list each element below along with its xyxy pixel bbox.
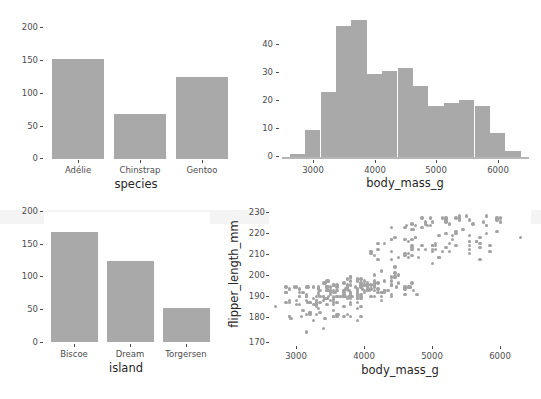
- scatter-point: [373, 279, 376, 282]
- histogram-bin[interactable]: [444, 103, 459, 157]
- histogram-ytick-label: 0: [245, 152, 273, 161]
- scatter-point: [369, 295, 372, 298]
- scatter-point: [359, 281, 362, 284]
- scatter-point: [359, 277, 362, 280]
- scatter-point: [458, 214, 461, 217]
- scatter-point: [359, 305, 362, 308]
- scatter-point: [298, 287, 301, 290]
- scatter-point: [448, 250, 451, 253]
- scatter-point: [373, 285, 376, 288]
- histogram-bin[interactable]: [475, 106, 490, 157]
- scatter-point: [390, 258, 393, 261]
- bar-biscoe[interactable]: [51, 232, 98, 342]
- scatter-point: [369, 283, 372, 286]
- scatter-xtick-mark: [500, 346, 501, 349]
- scatter-point: [468, 218, 471, 221]
- scatter-point: [410, 254, 413, 257]
- bar-adelie[interactable]: [52, 59, 104, 159]
- island-xtick-label: Torgersen: [156, 350, 216, 359]
- scatter-point: [488, 250, 491, 253]
- bar-dream[interactable]: [107, 261, 154, 342]
- scatter-point: [346, 277, 349, 280]
- histogram-bin[interactable]: [382, 71, 397, 157]
- histogram-bin[interactable]: [305, 130, 320, 157]
- species-ytick-label: 100: [4, 89, 38, 98]
- scatter-point: [444, 218, 447, 221]
- scatter-point: [414, 224, 417, 227]
- histogram-bin[interactable]: [413, 86, 428, 157]
- histogram-bin[interactable]: [336, 26, 351, 157]
- scatter-xtick-mark: [364, 346, 365, 349]
- histogram-bin[interactable]: [367, 74, 382, 157]
- histogram-ytick-mark: [276, 44, 279, 45]
- bar-torgersen[interactable]: [163, 308, 210, 342]
- island-ytick-label: 100: [4, 272, 38, 281]
- bar-chinstrap[interactable]: [114, 114, 166, 159]
- island-ytick-mark: [40, 276, 43, 277]
- scatter-point: [397, 281, 400, 284]
- island-ytick-mark: [40, 211, 43, 212]
- scatter-point: [499, 220, 502, 223]
- histogram-bin[interactable]: [459, 100, 474, 157]
- scatter-point: [410, 222, 413, 225]
- scatter-point: [305, 285, 308, 288]
- scatter-point: [318, 311, 321, 314]
- scatter-point: [376, 258, 379, 261]
- scatter-point: [441, 250, 444, 253]
- scatter-point: [300, 315, 303, 318]
- species-ytick-mark: [40, 126, 43, 127]
- species-ytick-mark: [40, 158, 43, 159]
- scatter-point: [342, 305, 345, 308]
- island-ytick-label: 150: [4, 240, 38, 249]
- island-xtick-mark: [74, 344, 75, 347]
- island-ytick-label: 50: [4, 305, 38, 314]
- scatter-point: [397, 256, 400, 259]
- island-xtick-label: Biscoe: [44, 350, 104, 359]
- scatter-point: [424, 220, 427, 223]
- panel-body-mass-histogram: 40 30 20 10 0 3000 4000 5000 6000 body_m…: [245, 0, 541, 199]
- bar-gentoo[interactable]: [176, 77, 228, 159]
- scatter-point: [342, 315, 345, 318]
- island-ytick-mark: [40, 342, 43, 343]
- island-ytick-mark: [40, 309, 43, 310]
- histogram-baseline: [282, 157, 529, 159]
- scatter-xtick-label: 6000: [475, 352, 525, 361]
- scatter-point: [468, 234, 471, 237]
- scatter-point: [478, 236, 481, 239]
- scatter-point: [468, 240, 471, 243]
- histogram-bin[interactable]: [398, 68, 413, 157]
- scatter-point: [373, 295, 376, 298]
- histogram-bin[interactable]: [428, 106, 443, 157]
- island-ytick-label: 200: [4, 207, 38, 216]
- species-ytick-label: 50: [4, 122, 38, 131]
- scatter-point: [485, 224, 488, 227]
- scatter-point: [349, 283, 352, 286]
- island-xtick-label: Dream: [100, 350, 160, 359]
- histogram-bin[interactable]: [490, 133, 505, 157]
- scatter-xtick-label: 3000: [271, 352, 321, 361]
- histogram-bin[interactable]: [321, 92, 336, 158]
- histogram-xtick-label: 6000: [473, 166, 523, 175]
- island-xtick-mark: [130, 344, 131, 347]
- panel-mass-vs-flipper-scatter: flipper_length_mm 230 220 210 200 190 18…: [215, 200, 541, 399]
- island-xaxis-title: island: [40, 363, 212, 375]
- island-ytick-mark: [40, 244, 43, 245]
- scatter-xtick-label: 4000: [339, 352, 389, 361]
- scatter-point: [393, 236, 396, 239]
- scatter-point: [448, 242, 451, 245]
- species-xtick-mark: [140, 160, 141, 163]
- scatter-xaxis-title: body_mass_g: [325, 365, 475, 377]
- scatter-point: [386, 289, 389, 292]
- histogram-bin[interactable]: [351, 20, 366, 157]
- scatter-point: [495, 216, 498, 219]
- scatter-point: [323, 317, 326, 320]
- scatter-point: [335, 313, 338, 316]
- scatter-point: [325, 297, 328, 300]
- scatter-point: [420, 216, 423, 219]
- scatter-point: [478, 246, 481, 249]
- scatter-point: [349, 279, 352, 282]
- scatter-point: [305, 330, 308, 333]
- histogram-xtick-mark: [313, 160, 314, 163]
- scatter-point: [429, 224, 432, 227]
- scatter-point: [376, 287, 379, 290]
